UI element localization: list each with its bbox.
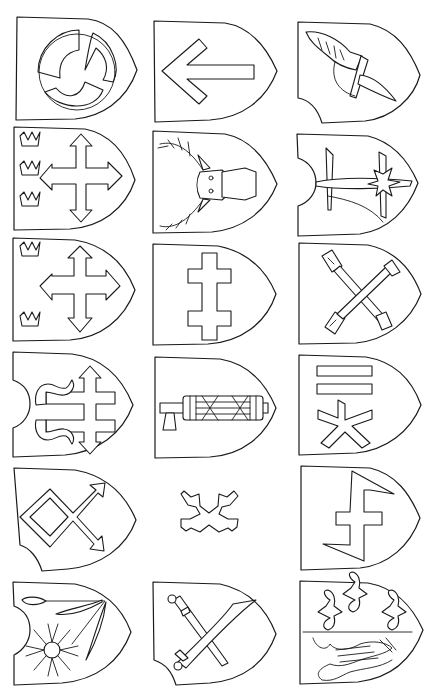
shield-arrow-cross-three-crowns: [14, 127, 135, 230]
saltire-crosslet: [181, 491, 238, 532]
shield-arrow-cross-two-crowns: [13, 238, 135, 341]
shield-fasces-axe: [155, 357, 276, 458]
shield-left-arrow: [154, 21, 277, 122]
shield-bars-asterisk: [299, 355, 421, 455]
heraldic-shields-sheet: [0, 0, 440, 693]
shield-diamond-arrows: [14, 468, 136, 571]
shield-double-cross-flames: [13, 352, 133, 457]
shield-stag-head: [153, 131, 277, 233]
shield-fleurs-dragon: [300, 572, 423, 684]
shield-zigzag-cross: [301, 466, 420, 570]
shield-crossed-hammers: [299, 243, 421, 344]
shield-crossed-swords: [153, 582, 276, 685]
shield-cornflower-wheat: [13, 582, 131, 685]
shield-sword-cross-ship: [297, 134, 418, 236]
saltire-crosslet-icon: [181, 491, 238, 532]
shield-winged-helmet: [298, 22, 420, 123]
shield-triskelion: [16, 17, 137, 120]
shield-double-cross: [153, 244, 276, 345]
